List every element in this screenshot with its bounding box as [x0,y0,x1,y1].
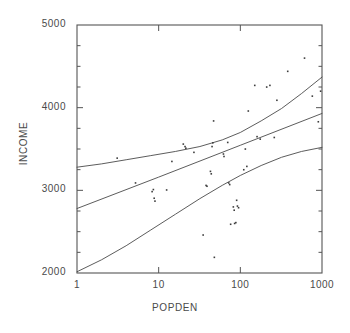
data-point [235,222,237,224]
data-point [318,121,320,123]
data-point [266,86,268,88]
data-point [153,197,155,199]
data-point [213,120,215,122]
data-point [243,169,245,171]
x-tick-label: 10 [139,279,179,290]
data-point [230,223,232,225]
data-point [312,95,314,97]
data-point [228,182,230,184]
plot-frame [77,25,322,273]
data-point [276,99,278,101]
scatter-plot-figure: INCOME POPDEN 2000300040005000 110100100… [0,0,350,333]
data-point [248,110,250,112]
data-point [166,189,168,191]
data-point [223,156,225,158]
y-tick-label: 3000 [20,183,66,194]
y-axis-title: INCOME [18,109,29,179]
data-point [320,90,322,92]
data-point [193,152,195,154]
data-point [246,166,248,168]
data-point [245,148,247,150]
data-point [185,147,187,149]
data-point [233,206,235,208]
y-tick-label: 4000 [20,101,66,112]
x-axis-title: POPDEN [0,302,350,313]
data-point [227,142,229,144]
data-point [287,71,289,73]
data-point [256,136,258,138]
data-point [238,207,240,209]
data-point [259,138,261,140]
data-point [171,161,173,163]
data-point [135,182,137,184]
data-point [183,143,185,145]
data-point [116,157,118,159]
x-tick-label: 1 [57,279,97,290]
data-point [269,85,271,87]
data-point [223,153,225,155]
data-point [210,171,212,173]
data-point [184,146,186,148]
data-point [273,137,275,139]
data-point [236,200,238,202]
data-point [304,57,306,59]
y-tick-label: 2000 [20,266,66,277]
data-point [237,205,239,207]
data-point [206,185,208,187]
data-point [210,173,212,175]
x-tick-label: 1000 [302,279,342,290]
x-tick-label: 100 [220,279,260,290]
data-point [233,209,235,211]
data-point [254,85,256,87]
data-point [202,234,204,236]
data-point [151,191,153,193]
data-point [153,189,155,191]
upper-confidence-band [77,77,322,167]
lower-confidence-band [77,147,322,271]
y-tick-label: 5000 [20,18,66,29]
data-point [214,257,216,259]
data-point [229,184,231,186]
data-point [212,142,214,144]
regression-fit-line [77,113,322,208]
data-point [154,200,156,202]
data-point [211,146,213,148]
